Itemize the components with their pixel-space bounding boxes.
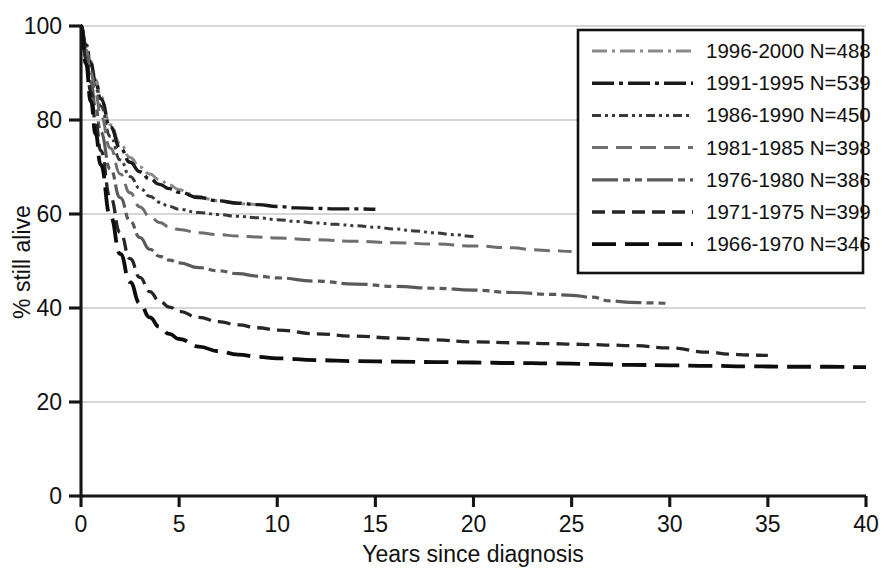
- legend-label-1991-1995: 1991-1995 N=539: [706, 71, 871, 94]
- x-tick-labels: 0510152025303540: [75, 511, 879, 537]
- y-tick-label-0: 0: [49, 483, 62, 509]
- x-tick-label-25: 25: [559, 511, 585, 537]
- x-tick-label-0: 0: [75, 511, 88, 537]
- legend-label-1971-1975: 1971-1975 N=399: [706, 200, 871, 223]
- x-tick-label-30: 30: [657, 511, 683, 537]
- x-axis-title: Years since diagnosis: [362, 541, 584, 567]
- legend-label-1986-1990: 1986-1990 N=450: [706, 103, 871, 126]
- x-tick-label-20: 20: [461, 511, 487, 537]
- x-tick-label-5: 5: [173, 511, 186, 537]
- legend: 1996-2000 N=4881991-1995 N=5391986-1990 …: [578, 30, 871, 273]
- curve-1991-1995: [81, 26, 375, 209]
- x-tick-label-40: 40: [853, 511, 879, 537]
- x-tick-label-35: 35: [755, 511, 781, 537]
- legend-label-1996-2000: 1996-2000 N=488: [706, 39, 871, 62]
- y-axis-title: % still alive: [9, 205, 35, 319]
- y-tick-label-100: 100: [24, 13, 62, 39]
- y-tick-label-60: 60: [36, 201, 62, 227]
- legend-label-1966-1970: 1966-1970 N=346: [706, 232, 871, 255]
- x-tick-label-10: 10: [264, 511, 290, 537]
- y-tick-label-20: 20: [36, 389, 62, 415]
- curve-1981-1985: [81, 26, 572, 252]
- legend-label-1976-1980: 1976-1980 N=386: [706, 168, 871, 191]
- survival-chart: 0510152025303540 020406080100 Years sinc…: [0, 0, 895, 576]
- chart-canvas: 0510152025303540 020406080100 Years sinc…: [0, 0, 895, 576]
- legend-label-1981-1985: 1981-1985 N=398: [706, 136, 871, 159]
- y-tick-label-80: 80: [36, 107, 62, 133]
- y-tick-label-40: 40: [36, 295, 62, 321]
- curve-1996-2000: [81, 26, 258, 205]
- x-tick-label-15: 15: [363, 511, 389, 537]
